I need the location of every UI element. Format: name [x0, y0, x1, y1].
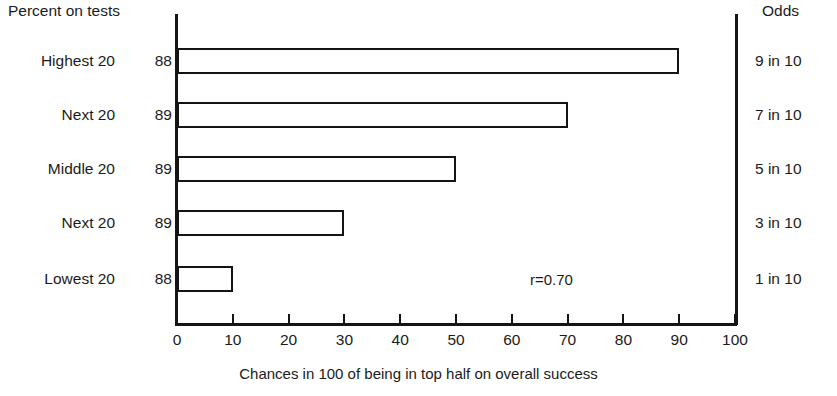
x-axis-tick — [622, 314, 624, 324]
x-axis-tick-label: 10 — [213, 332, 253, 348]
category-label: Lowest 20 — [0, 271, 115, 287]
odds-value: 9 in 10 — [755, 53, 837, 69]
person-count-value: 89 — [136, 107, 172, 123]
correlation-annotation: r=0.70 — [530, 272, 573, 287]
odds-value: 7 in 10 — [755, 107, 837, 123]
category-label: Highest 20 — [0, 53, 115, 69]
x-axis-tick — [343, 314, 345, 324]
x-axis-tick-label: 40 — [380, 332, 420, 348]
person-count-value: 88 — [136, 271, 172, 287]
x-axis-tick-label: 70 — [548, 332, 588, 348]
odds-value: 5 in 10 — [755, 161, 837, 177]
plot-area: 0102030405060708090100 — [177, 14, 735, 325]
person-count-value: 89 — [136, 215, 172, 231]
person-count-value: 89 — [136, 161, 172, 177]
odds-value: 1 in 10 — [755, 271, 837, 287]
odds-value: 3 in 10 — [755, 215, 837, 231]
x-axis-tick — [734, 314, 736, 324]
bar — [177, 266, 233, 292]
x-axis-tick — [232, 314, 234, 324]
bar — [177, 156, 456, 182]
x-axis-tick-label: 90 — [659, 332, 699, 348]
category-label-column: Highest 20Next 20Middle 20Next 20Lowest … — [0, 0, 115, 396]
right-axis-line — [735, 14, 738, 325]
x-axis-tick — [567, 314, 569, 324]
x-axis-tick — [678, 314, 680, 324]
person-count-value: 88 — [136, 53, 172, 69]
x-axis-tick — [399, 314, 401, 324]
x-axis-tick — [455, 314, 457, 324]
x-axis-title: Chances in 100 of being in top half on o… — [0, 366, 837, 381]
x-axis-tick-label: 100 — [715, 332, 755, 348]
bar-chart-figure: Percent on tests Odds Highest 20Next 20M… — [0, 0, 837, 396]
bar — [177, 48, 679, 74]
category-label: Middle 20 — [0, 161, 115, 177]
category-label: Next 20 — [0, 215, 115, 231]
odds-label-column: 9 in 107 in 105 in 103 in 101 in 10 — [755, 0, 837, 396]
x-axis-tick — [288, 314, 290, 324]
x-axis-tick-label: 0 — [157, 332, 197, 348]
bar — [177, 210, 344, 236]
x-axis-tick-label: 30 — [324, 332, 364, 348]
category-label: Next 20 — [0, 107, 115, 123]
x-axis-tick-label: 20 — [269, 332, 309, 348]
x-axis-tick — [511, 314, 513, 324]
bar — [177, 102, 568, 128]
x-axis-tick-label: 80 — [603, 332, 643, 348]
x-axis-tick-label: 60 — [492, 332, 532, 348]
x-axis-tick — [176, 314, 178, 324]
x-axis-tick-label: 50 — [436, 332, 476, 348]
